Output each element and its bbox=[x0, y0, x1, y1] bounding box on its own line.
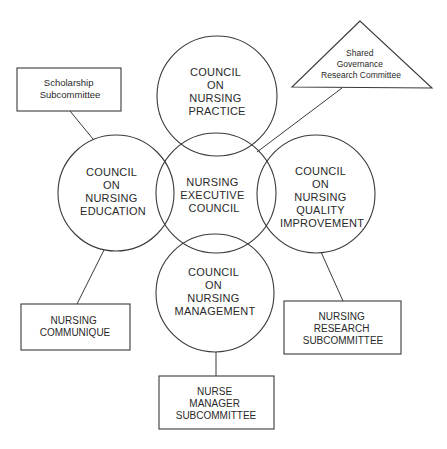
connector-education-communique bbox=[77, 250, 104, 304]
governance-diagram: COUNCIL ON NURSING PRACTICE COUNCIL ON N… bbox=[0, 0, 447, 449]
council-management-label: COUNCIL ON NURSING MANAGEMENT bbox=[175, 266, 256, 317]
council-practice-label: COUNCIL ON NURSING PRACTICE bbox=[188, 66, 245, 117]
council-nursing-quality-improvement: COUNCIL ON NURSING QUALITY IMPROVEMENT bbox=[257, 135, 375, 253]
connector-scholarship-education bbox=[70, 111, 93, 139]
scholarship-label: Scholarship Subcommittee bbox=[40, 77, 101, 100]
connector-quality-research bbox=[321, 252, 343, 301]
shared-governance-research-committee: Shared Governance Research Committee bbox=[292, 21, 432, 88]
nurse-manager-subcommittee: NURSE MANAGER SUBCOMMITTEE bbox=[159, 376, 274, 429]
council-nursing-education: COUNCIL ON NURSING EDUCATION bbox=[58, 135, 174, 251]
nursing-communique: NURSING COMMUNIQUE bbox=[21, 304, 130, 350]
council-nursing-practice: COUNCIL ON NURSING PRACTICE bbox=[157, 36, 277, 156]
connector-governance-center bbox=[257, 88, 342, 152]
council-quality-label: COUNCIL ON NURSING QUALITY IMPROVEMENT bbox=[280, 165, 364, 229]
research-label: NURSING RESEARCH SUBCOMMITTEE bbox=[303, 311, 384, 346]
scholarship-subcommittee: Scholarship Subcommittee bbox=[17, 68, 121, 111]
nurse-manager-label: NURSE MANAGER SUBCOMMITTEE bbox=[176, 386, 257, 421]
nursing-research-subcommittee: NURSING RESEARCH SUBCOMMITTEE bbox=[284, 301, 401, 354]
council-education-label: COUNCIL ON NURSING EDUCATION bbox=[80, 166, 146, 217]
communique-label: NURSING COMMUNIQUE bbox=[40, 315, 111, 338]
shared-governance-label: Shared Governance Research Committee bbox=[321, 48, 401, 80]
executive-council-label: NURSING EXECUTIVE COUNCIL bbox=[180, 176, 247, 214]
council-nursing-management: COUNCIL ON NURSING MANAGEMENT bbox=[156, 234, 274, 352]
